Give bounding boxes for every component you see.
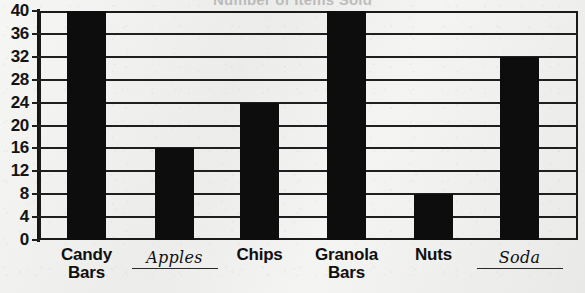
- gridline: [39, 125, 578, 127]
- y-axis-tick-label: 40: [0, 2, 29, 19]
- chart-title: Number of Items Sold: [0, 0, 585, 8]
- handwriting-rule-line: [132, 268, 218, 269]
- y-axis-tick-label: 20: [0, 117, 29, 134]
- gridline: [39, 170, 578, 172]
- gridline: [39, 56, 578, 58]
- x-axis-label-text: Nuts: [415, 245, 452, 264]
- x-axis-label-text: Apples: [146, 248, 203, 267]
- bar-granola-bars: [327, 11, 366, 240]
- y-axis-tick-label: 28: [0, 71, 29, 88]
- gridline: [39, 79, 578, 81]
- bar-nuts: [414, 194, 453, 240]
- bar-apples: [155, 148, 194, 240]
- y-axis-tick-label: 8: [0, 185, 29, 202]
- y-axis-tick-label: 12: [0, 162, 29, 179]
- bar-chart-worksheet: Number of Items Sold 4036322824201612840…: [0, 0, 585, 293]
- gridline: [39, 193, 578, 195]
- y-axis-tick-label: 24: [0, 94, 29, 111]
- gridline: [39, 147, 578, 149]
- y-axis-tick-label: 0: [0, 231, 29, 248]
- x-axis-label-text: Candy: [61, 245, 112, 264]
- gridline: [39, 33, 578, 35]
- x-axis-label-text: Granola: [315, 245, 378, 264]
- x-axis-label-text: Chips: [236, 245, 282, 264]
- y-axis-tick-label: 32: [0, 48, 29, 65]
- bar-candy-bars: [67, 11, 106, 240]
- y-axis-tick-label: 4: [0, 208, 29, 225]
- gridline: [39, 102, 578, 104]
- gridline: [39, 216, 578, 218]
- bar-soda: [500, 57, 539, 240]
- x-axis-label-text: Bars: [287, 264, 407, 282]
- y-axis-tick-label: 36: [0, 25, 29, 42]
- x-axis-label-text: Soda: [499, 248, 541, 267]
- y-axis-tick-label: 16: [0, 139, 29, 156]
- bar-chips: [240, 103, 279, 240]
- plot-area: [39, 11, 578, 240]
- x-axis-label-soda: Soda: [460, 249, 580, 269]
- handwriting-rule-line: [477, 268, 563, 269]
